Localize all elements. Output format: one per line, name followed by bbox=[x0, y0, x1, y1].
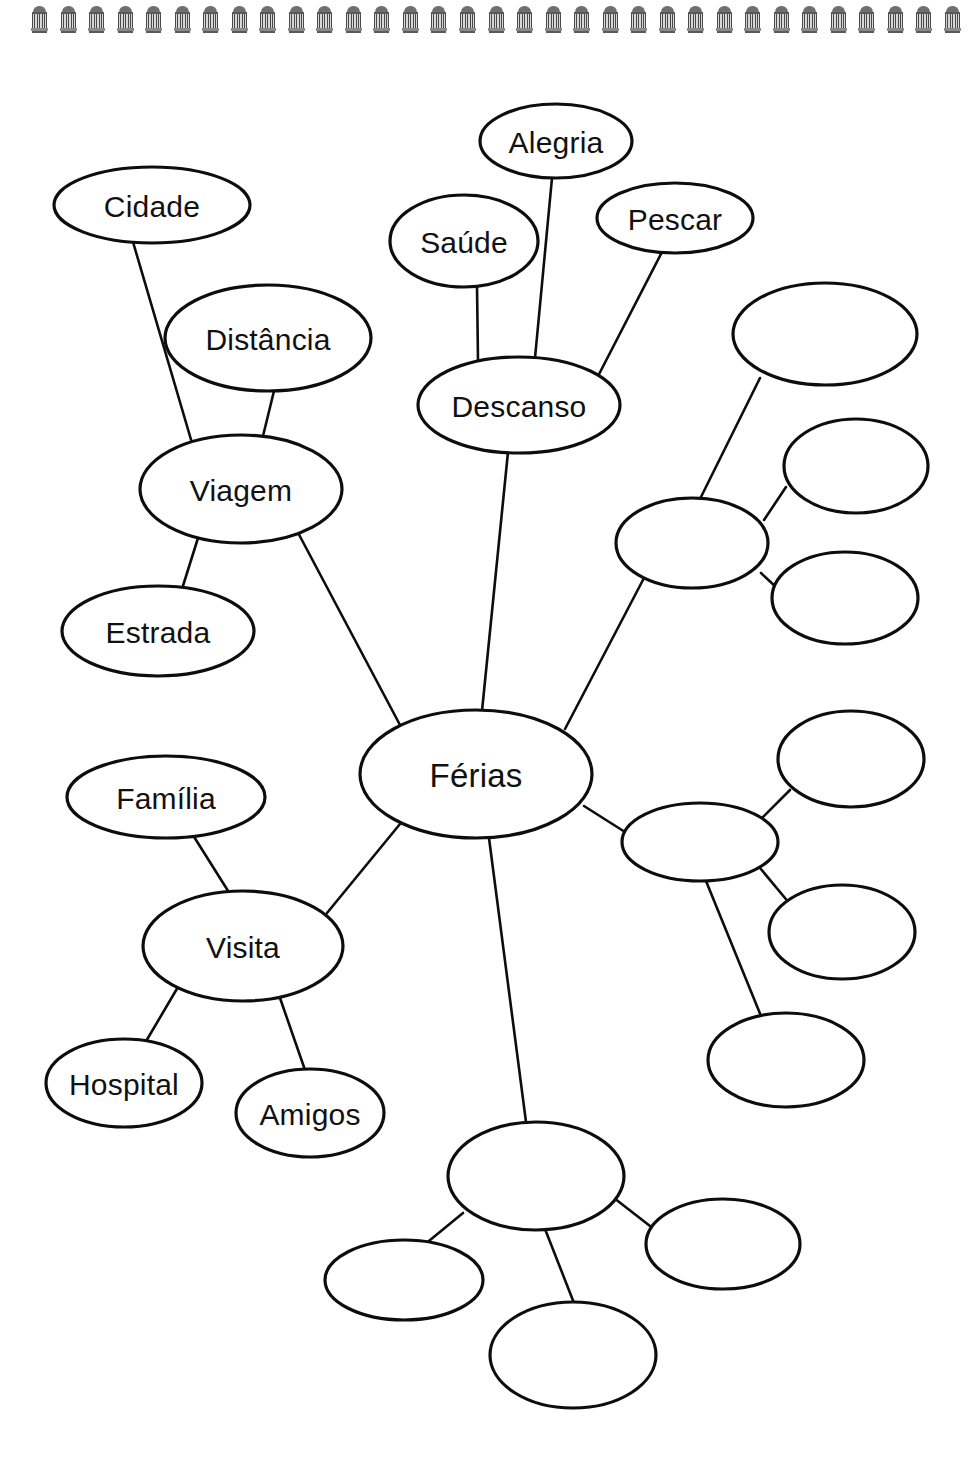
node-label-pescar: Pescar bbox=[628, 203, 723, 236]
node-ellipse-shape[interactable] bbox=[448, 1122, 624, 1230]
connector-line-blank_r2-to-blank_r3 bbox=[764, 487, 786, 520]
node-label-saude: Saúde bbox=[420, 226, 508, 259]
connector-line-viagem-to-estrada bbox=[182, 538, 198, 589]
node-label-ferias: Férias bbox=[430, 757, 523, 794]
node-ellipse-shape[interactable] bbox=[772, 552, 918, 644]
blank-node-blank_r1[interactable] bbox=[733, 283, 917, 385]
connector-line-ferias-to-blank_b1 bbox=[489, 838, 526, 1122]
node-label-visita: Visita bbox=[206, 931, 280, 964]
node-descanso[interactable]: Descanso bbox=[418, 357, 620, 453]
mind-map-canvas: FériasCidadeDistânciaViagemEstradaSaúdeA… bbox=[0, 0, 977, 1478]
connector-line-blank_b1-to-blank_b4 bbox=[545, 1229, 574, 1303]
connector-line-blank_r6-to-blank_r8 bbox=[706, 881, 761, 1016]
node-ellipse-shape[interactable] bbox=[622, 803, 778, 881]
node-ellipse-shape[interactable] bbox=[708, 1013, 864, 1107]
node-familia[interactable]: Família bbox=[67, 756, 265, 838]
blank-node-blank_r5[interactable] bbox=[778, 711, 924, 807]
connector-line-saude-to-descanso bbox=[477, 286, 478, 361]
nodes-group: FériasCidadeDistânciaViagemEstradaSaúdeA… bbox=[46, 104, 928, 1408]
connector-line-blank_r3-to-ferias bbox=[565, 578, 644, 729]
node-label-distancia: Distância bbox=[205, 323, 330, 356]
blank-node-blank_b3[interactable] bbox=[646, 1199, 800, 1289]
node-ellipse-shape[interactable] bbox=[784, 419, 928, 513]
node-ellipse-shape[interactable] bbox=[778, 711, 924, 807]
node-viagem[interactable]: Viagem bbox=[140, 435, 342, 543]
blank-node-blank_b4[interactable] bbox=[490, 1302, 656, 1408]
node-ellipse-shape[interactable] bbox=[325, 1240, 483, 1320]
node-ellipse-shape[interactable] bbox=[490, 1302, 656, 1408]
connector-line-alegria-to-descanso bbox=[535, 178, 552, 358]
connector-line-descanso-to-ferias bbox=[482, 452, 508, 711]
connector-line-visita-to-amigos bbox=[280, 998, 305, 1070]
blank-node-blank_b1[interactable] bbox=[448, 1122, 624, 1230]
node-label-familia: Família bbox=[116, 782, 216, 815]
connector-line-ferias-to-blank_r6 bbox=[584, 806, 625, 832]
worksheet-page: FériasCidadeDistânciaViagemEstradaSaúdeA… bbox=[0, 0, 977, 1478]
blank-node-blank_r7[interactable] bbox=[769, 885, 915, 979]
node-ellipse-shape[interactable] bbox=[733, 283, 917, 385]
blank-node-blank_r6[interactable] bbox=[622, 803, 778, 881]
node-saude[interactable]: Saúde bbox=[390, 195, 538, 287]
node-hospital[interactable]: Hospital bbox=[46, 1039, 202, 1127]
connector-line-distancia-to-viagem bbox=[263, 391, 274, 436]
node-estrada[interactable]: Estrada bbox=[62, 586, 254, 676]
node-ellipse-shape[interactable] bbox=[769, 885, 915, 979]
node-label-descanso: Descanso bbox=[451, 390, 586, 423]
node-amigos[interactable]: Amigos bbox=[236, 1069, 384, 1157]
node-visita[interactable]: Visita bbox=[143, 891, 343, 1001]
node-ferias[interactable]: Férias bbox=[360, 710, 592, 838]
connector-line-familia-to-visita bbox=[191, 832, 230, 894]
blank-node-blank_r4[interactable] bbox=[772, 552, 918, 644]
node-alegria[interactable]: Alegria bbox=[480, 104, 632, 178]
connector-line-blank_r1-to-blank_r3 bbox=[700, 378, 760, 499]
node-ellipse-shape[interactable] bbox=[616, 498, 768, 588]
node-ellipse-shape[interactable] bbox=[646, 1199, 800, 1289]
connector-line-blank_b1-to-blank_b2 bbox=[424, 1213, 463, 1245]
node-label-hospital: Hospital bbox=[69, 1068, 179, 1101]
blank-node-blank_r8[interactable] bbox=[708, 1013, 864, 1107]
connector-line-blank_r6-to-blank_r7 bbox=[760, 868, 790, 904]
connector-line-pescar-to-descanso bbox=[595, 252, 662, 382]
connector-line-viagem-to-ferias bbox=[295, 527, 400, 725]
node-label-alegria: Alegria bbox=[509, 126, 604, 159]
node-label-viagem: Viagem bbox=[190, 474, 292, 507]
blank-node-blank_r2[interactable] bbox=[784, 419, 928, 513]
node-label-estrada: Estrada bbox=[106, 616, 211, 649]
node-label-amigos: Amigos bbox=[259, 1098, 360, 1131]
node-distancia[interactable]: Distância bbox=[165, 285, 371, 391]
connector-line-blank_r6-to-blank_r5 bbox=[759, 790, 790, 821]
node-pescar[interactable]: Pescar bbox=[597, 183, 753, 253]
connector-line-visita-to-ferias bbox=[327, 824, 400, 913]
blank-node-blank_b2[interactable] bbox=[325, 1240, 483, 1320]
node-label-cidade: Cidade bbox=[104, 190, 200, 223]
blank-node-blank_r3[interactable] bbox=[616, 498, 768, 588]
connector-line-visita-to-hospital bbox=[145, 987, 178, 1043]
node-cidade[interactable]: Cidade bbox=[54, 167, 250, 243]
